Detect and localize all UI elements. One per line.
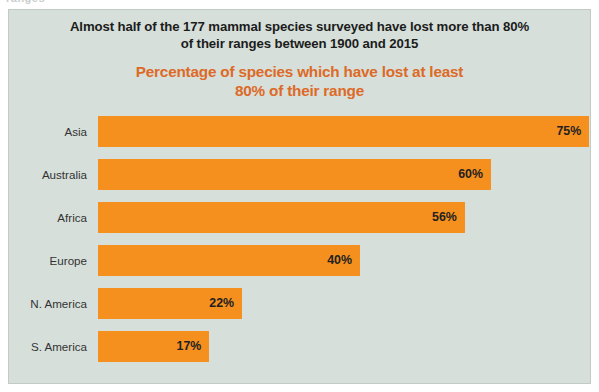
chart-subtitle-line-1: Percentage of species which have lost at…: [136, 63, 463, 80]
bar-row: N. America22%: [9, 288, 591, 319]
chart-title-line-1: Almost half of the 177 mammal species su…: [70, 19, 529, 34]
chart-subtitle-line-2: 80% of their range: [235, 82, 364, 99]
bar-chart-plot-area: Asia75%Australia60%Africa56%Europe40%N. …: [9, 113, 591, 383]
bar-n-america[interactable]: 22%: [98, 288, 242, 319]
bar-s-america[interactable]: 17%: [98, 331, 209, 362]
chart-title-line-2: of their ranges between 1900 and 2015: [181, 36, 418, 51]
bar-row: S. America17%: [9, 331, 591, 362]
bar-value-label: 56%: [432, 202, 457, 233]
bar-row: Africa56%: [9, 202, 591, 233]
clipped-text-strip: ranges: [0, 0, 599, 9]
bar-asia[interactable]: 75%: [98, 116, 589, 147]
category-label-s-america: S. America: [9, 331, 87, 362]
category-label-australia: Australia: [9, 159, 87, 190]
bar-row: Asia75%: [9, 116, 591, 147]
category-label-asia: Asia: [9, 116, 87, 147]
category-label-africa: Africa: [9, 202, 87, 233]
bar-row: Europe40%: [9, 245, 591, 276]
category-label-n-america: N. America: [9, 288, 87, 319]
bar-australia[interactable]: 60%: [98, 159, 491, 190]
bar-value-label: 22%: [209, 288, 234, 319]
chart-title: Almost half of the 177 mammal species su…: [19, 18, 580, 52]
bar-value-label: 60%: [458, 159, 483, 190]
bar-value-label: 40%: [327, 245, 352, 276]
chart-subtitle: Percentage of species which have lost at…: [49, 62, 550, 100]
category-label-europe: Europe: [9, 245, 87, 276]
clipped-text: ranges: [6, 0, 45, 4]
bar-value-label: 75%: [556, 116, 581, 147]
bar-europe[interactable]: 40%: [98, 245, 360, 276]
bar-row: Australia60%: [9, 159, 591, 190]
bar-value-label: 17%: [177, 331, 202, 362]
bar-africa[interactable]: 56%: [98, 202, 465, 233]
chart-figure: Almost half of the 177 mammal species su…: [8, 9, 591, 384]
